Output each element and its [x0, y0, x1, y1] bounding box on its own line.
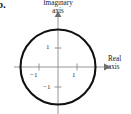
complex-plane-unit-circle-figure: b. Imaginary axis Real axis −1 1 1 −1: [0, 0, 131, 114]
imaginary-axis-arrowhead-icon: [55, 11, 62, 17]
real-axis-arrowhead-icon: [104, 64, 111, 71]
plot-canvas: [0, 0, 131, 114]
